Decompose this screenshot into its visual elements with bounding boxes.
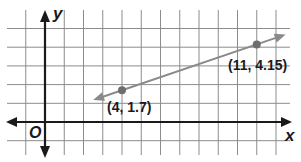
data-point <box>253 40 261 48</box>
y-axis-down-arrow-icon <box>40 146 50 158</box>
y-axis <box>40 10 50 158</box>
data-point <box>118 86 126 94</box>
point-label-11-4.15: (11, 4.15) <box>228 57 287 73</box>
y-axis-up-arrow-icon <box>40 10 50 22</box>
x-axis-label: x <box>285 126 294 146</box>
coordinate-plane <box>0 0 301 162</box>
origin-label: O <box>29 124 41 142</box>
x-axis <box>6 117 292 127</box>
grid-lines <box>7 10 290 155</box>
x-axis-left-arrow-icon <box>6 117 17 127</box>
point-label-4-1.7: (4, 1.7) <box>107 99 151 115</box>
y-axis-label: y <box>53 4 62 24</box>
